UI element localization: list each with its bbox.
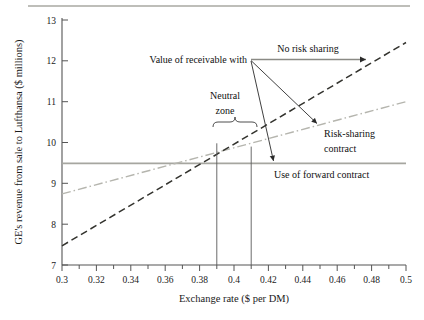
neutral-zone-markers: [213, 117, 257, 265]
x-tick-label-0-42: 0.42: [260, 275, 277, 285]
y-tick-label-13: 13: [47, 16, 57, 26]
annotation-risk-sharing-line2: contract: [324, 143, 356, 154]
x-tick-label-0-38: 0.38: [191, 275, 208, 285]
y-axis-title: GE's revenue from sale to Lufthansa ($ m…: [13, 39, 25, 245]
y-tick-label-12: 12: [47, 56, 57, 66]
annotation-risk-sharing-line1: Risk-sharing: [324, 128, 375, 139]
y-tick-label-11: 11: [47, 97, 56, 107]
y-axis-ticks: [62, 20, 68, 265]
x-tick-label-0-50: 0.5: [400, 275, 412, 285]
y-tick-label-9: 9: [51, 179, 56, 189]
y-axis-tick-labels: 13 12 11 10 9 8 7: [47, 16, 57, 271]
chart-figure: 13 12 11 10 9 8 7: [0, 0, 424, 320]
x-tick-label-0-36: 0.36: [157, 275, 174, 285]
neutral-zone-brace: [213, 117, 257, 127]
x-tick-label-0-46: 0.46: [329, 275, 346, 285]
x-tick-label-0-32: 0.32: [88, 275, 105, 285]
annotation-use-of-forward-contract: Use of forward contract: [274, 169, 369, 180]
x-tick-label-0-30: 0.3: [56, 275, 68, 285]
x-tick-label-0-48: 0.48: [363, 275, 380, 285]
x-tick-label-0-44: 0.44: [294, 275, 311, 285]
annotation-neutral-zone-line1: Neutral: [210, 90, 240, 101]
annotation-no-risk-sharing: No risk sharing: [277, 43, 339, 54]
x-axis-tick-labels: 0.3 0.32 0.34 0.36 0.38 0.4 0.42 0.44 0.…: [56, 275, 412, 285]
x-axis-title: Exchange rate ($ per DM): [179, 293, 290, 305]
annotation-neutral-zone-line2: zone: [216, 105, 235, 116]
x-tick-label-0-40: 0.4: [228, 275, 240, 285]
y-tick-label-10: 10: [47, 138, 57, 148]
y-tick-label-8: 8: [51, 220, 56, 230]
exchange-rate-revenue-chart: 13 12 11 10 9 8 7: [0, 0, 424, 320]
annotation-value-of-receivable: Value of receivable with: [150, 54, 247, 65]
x-tick-label-0-34: 0.34: [122, 275, 139, 285]
y-tick-label-7: 7: [51, 261, 56, 271]
leader-use-of-forward-contract: [251, 61, 274, 161]
